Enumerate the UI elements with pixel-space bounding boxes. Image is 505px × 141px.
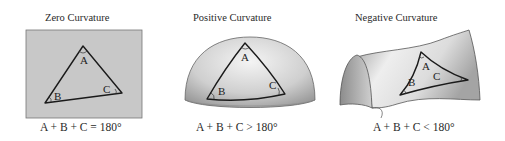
vertex-label-c: C (433, 70, 440, 82)
vertex-label-a: A (80, 54, 88, 66)
vertex-label-c: C (269, 79, 276, 91)
sphere-diagram: A B C (165, 0, 335, 141)
saddle-diagram: A B C (335, 0, 505, 141)
panel-negative-curvature: Negative Curvature A B C A + (335, 0, 505, 141)
angle-sum-equation: A + B + C < 180° (373, 121, 455, 133)
vertex-label-a: A (422, 60, 430, 72)
panel-positive-curvature: Positive Curvature A B C A + B + C > 180… (165, 0, 335, 141)
panel-zero-curvature: Zero Curvature A B C A + B + C = 180° (0, 0, 165, 141)
angle-sum-equation: A + B + C = 180° (40, 121, 122, 133)
vertex-label-b: B (218, 85, 225, 97)
vertex-label-b: B (408, 76, 415, 88)
vertex-label-b: B (54, 90, 61, 102)
angle-sum-equation: A + B + C > 180° (196, 121, 278, 133)
vertex-label-c: C (103, 83, 110, 95)
flat-plane-diagram: A B C (0, 0, 165, 141)
vertex-label-a: A (241, 51, 249, 63)
